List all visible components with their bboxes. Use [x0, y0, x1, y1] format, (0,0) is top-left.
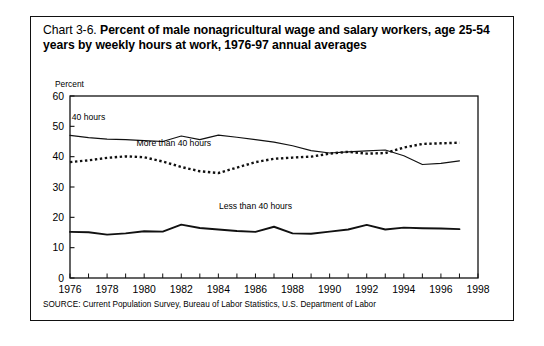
series-annotation-0: 40 hours — [72, 112, 105, 122]
x-axis-tick-label: 1980 — [133, 284, 156, 295]
y-axis-tick-label: 40 — [52, 151, 64, 162]
x-axis-tick-label: 1988 — [281, 284, 304, 295]
y-axis-tick-label: 50 — [52, 121, 64, 132]
plot-frame — [70, 96, 478, 278]
x-axis-tick-label: 1992 — [355, 284, 378, 295]
x-axis-tick-label: 1978 — [96, 284, 119, 295]
line-chart-svg: 0102030405060197619781980198219841986198… — [31, 17, 515, 322]
x-axis-tick-label: 1976 — [58, 284, 81, 295]
source-note: SOURCE: Current Population Survey, Burea… — [43, 300, 376, 309]
x-axis-tick-label: 1986 — [244, 284, 267, 295]
chart-figure-box: Chart 3-6. Percent of male nonagricultur… — [30, 16, 514, 321]
x-axis-tick-label: 1982 — [170, 284, 193, 295]
series-line-2 — [70, 225, 459, 235]
x-axis-tick-label: 1984 — [207, 284, 230, 295]
y-axis-tick-label: 20 — [52, 212, 64, 223]
x-axis-tick-label: 1998 — [466, 284, 489, 295]
series-annotation-2: Less than 40 hours — [219, 201, 292, 211]
y-axis-tick-label: 0 — [58, 273, 64, 284]
x-axis-tick-label: 1994 — [392, 284, 415, 295]
plot-area: 0102030405060197619781980198219841986198… — [31, 17, 515, 322]
x-axis-tick-label: 1990 — [318, 284, 341, 295]
series-line-1 — [70, 143, 459, 173]
series-line-0 — [70, 135, 459, 164]
y-axis-tick-label: 30 — [52, 182, 64, 193]
y-axis-tick-label: 60 — [52, 91, 64, 102]
x-axis-tick-label: 1996 — [429, 284, 452, 295]
series-annotation-1: More than 40 hours — [137, 138, 212, 148]
y-axis-tick-label: 10 — [52, 242, 64, 253]
